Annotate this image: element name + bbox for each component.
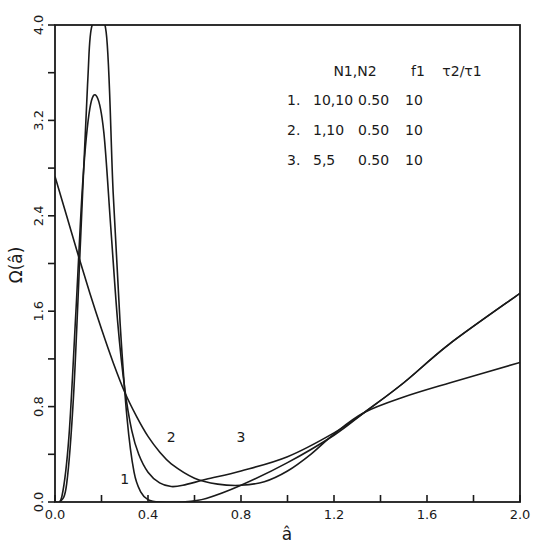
legend-cell: 0.50 (358, 122, 389, 138)
legend-cell: 10 (405, 152, 423, 168)
x-tick-label: 0.8 (231, 507, 252, 522)
x-tick-label: 0.0 (45, 507, 66, 522)
curve-label-2: 2 (167, 429, 176, 445)
legend-cell: 5,5 (313, 152, 335, 168)
x-axis-ticks: 0.00.40.81.21.62.0 (45, 495, 531, 522)
curve-label-3: 3 (237, 429, 246, 445)
y-axis-ticks: 0.00.81.62.43.24.0 (31, 15, 55, 513)
legend-cell: 0.50 (358, 152, 389, 168)
y-tick-label: 2.4 (31, 205, 46, 226)
legend-cell: 10,10 (313, 92, 353, 108)
legend-header: N1,N2 (333, 63, 376, 79)
legend-cell: 0.50 (358, 92, 389, 108)
x-tick-label: 1.2 (324, 507, 345, 522)
legend-cell: 2. (287, 122, 300, 138)
legend-header: τ2/τ1 (442, 63, 481, 79)
curve-3 (55, 176, 520, 485)
legend: N1,N2f1τ2/τ11.10,100.50102.1,100.50103.5… (287, 63, 482, 168)
curves (55, 15, 520, 504)
chart: 0.00.40.81.21.62.0 0.00.81.62.43.24.0 12… (0, 0, 541, 553)
legend-cell: 1. (287, 92, 300, 108)
curve-1 (55, 15, 520, 504)
y-tick-label: 0.0 (31, 492, 46, 513)
legend-cell: 1,10 (313, 122, 344, 138)
y-axis-label: Ω(â) (6, 247, 26, 284)
y-tick-label: 1.6 (31, 301, 46, 322)
curve-label-1: 1 (120, 471, 129, 487)
legend-cell: 3. (287, 152, 300, 168)
y-tick-label: 3.2 (31, 110, 46, 131)
x-axis-label: â (282, 524, 292, 544)
curve-labels: 123 (120, 429, 245, 487)
y-tick-label: 4.0 (31, 15, 46, 36)
legend-cell: 10 (405, 122, 423, 138)
legend-header: f1 (411, 63, 425, 79)
x-tick-label: 1.6 (417, 507, 438, 522)
legend-cell: 10 (405, 92, 423, 108)
x-tick-label: 2.0 (510, 507, 531, 522)
x-tick-label: 0.4 (138, 507, 159, 522)
y-tick-label: 0.8 (31, 396, 46, 417)
